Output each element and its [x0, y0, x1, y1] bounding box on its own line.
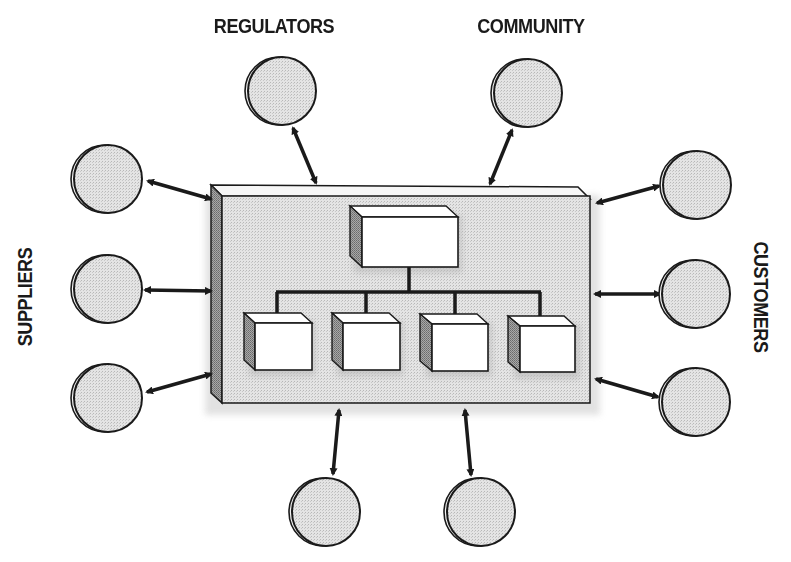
stakeholder-community-circle [491, 59, 562, 127]
org-child-node-1 [244, 313, 315, 376]
arrow-community [490, 130, 512, 184]
arrow-customer-1 [597, 186, 659, 203]
arrow-bottom-1 [333, 410, 339, 474]
arrow-supplier-1 [148, 181, 211, 199]
arrow-supplier-3 [147, 374, 211, 392]
stakeholder-supplier-circle-3 [71, 364, 142, 432]
org-child-node-3 [420, 314, 492, 377]
arrow-customer-3 [596, 379, 658, 397]
label-suppliers: SUPPLIERS [13, 237, 37, 357]
stakeholder-customer-circle-1 [660, 151, 731, 219]
stakeholder-diagram [0, 0, 791, 562]
stakeholder-supplier-circle-2 [71, 255, 142, 323]
stakeholder-bottom-circle-2 [444, 478, 515, 546]
arrow-regulators [293, 128, 316, 183]
stakeholder-bottom-circle-1 [289, 478, 360, 546]
label-community: COMMUNITY [467, 14, 596, 38]
arrow-bottom-2 [465, 410, 471, 475]
stakeholder-supplier-circle-1 [71, 145, 142, 213]
stakeholder-customer-circle-2 [659, 260, 730, 328]
label-regulators: REGULATORS [200, 14, 348, 38]
org-child-node-2 [332, 313, 403, 376]
arrow-supplier-2 [145, 290, 211, 291]
label-customers: CUSTOMERS [749, 228, 773, 366]
org-top-node [350, 206, 462, 273]
stakeholder-regulators-circle [245, 57, 316, 125]
stakeholder-customer-circle-3 [659, 368, 730, 436]
org-child-node-4 [508, 316, 580, 379]
